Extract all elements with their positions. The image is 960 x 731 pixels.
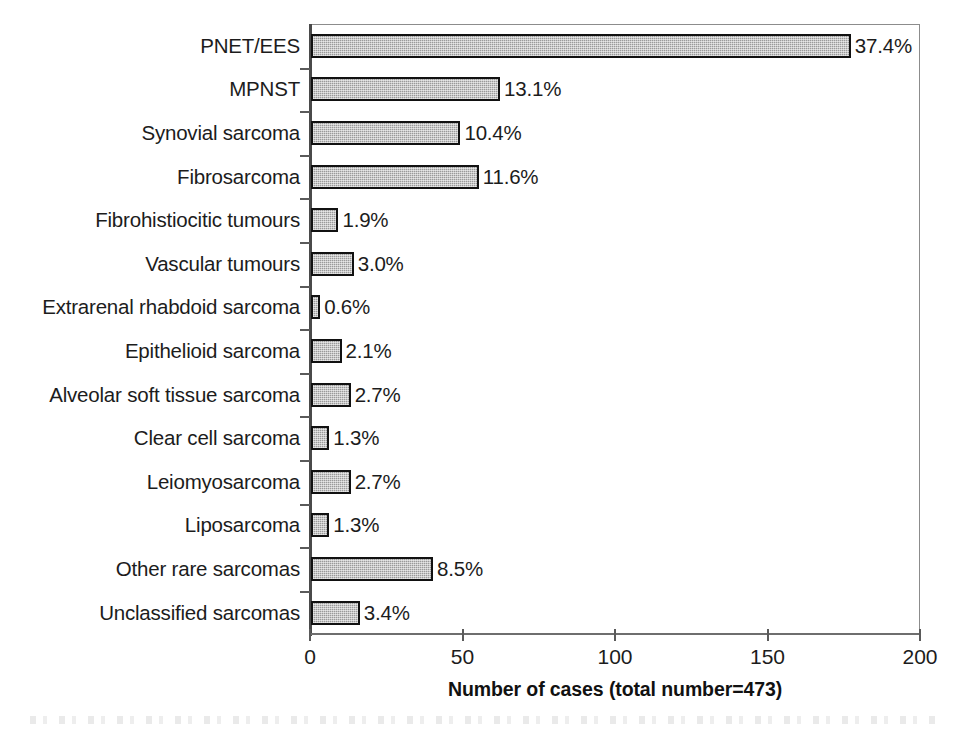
x-axis-tick-label: 200 — [902, 645, 937, 669]
category-label: Other rare sarcomas — [116, 557, 300, 581]
bar-group: 3.4% — [311, 601, 410, 625]
bar-group: 1.3% — [311, 513, 379, 537]
bar-row: Leiomyosarcoma2.7% — [0, 460, 960, 504]
y-axis-tick — [300, 242, 310, 244]
bar-group: 0.6% — [311, 295, 370, 319]
bar-value-label: 1.3% — [333, 426, 379, 450]
category-label: Vascular tumours — [145, 252, 300, 276]
bar — [311, 295, 320, 319]
y-axis-tick — [300, 547, 310, 549]
bar — [311, 77, 500, 101]
bar — [311, 208, 338, 232]
bar — [311, 426, 329, 450]
y-axis-tick — [300, 504, 310, 506]
y-axis-tick — [300, 460, 310, 462]
category-label: PNET/EES — [200, 34, 300, 58]
bar-row: Extrarenal rhabdoid sarcoma0.6% — [0, 286, 960, 330]
category-label: Fibrosarcoma — [177, 165, 300, 189]
bar-value-label: 1.9% — [342, 208, 388, 232]
bar-value-label: 3.4% — [364, 601, 410, 625]
bar-value-label: 2.1% — [346, 339, 392, 363]
y-axis-tick — [300, 198, 310, 200]
bar-row: Clear cell sarcoma1.3% — [0, 416, 960, 460]
bar — [311, 252, 354, 276]
x-axis-tick-label: 150 — [750, 645, 785, 669]
bar-value-label: 13.1% — [504, 77, 561, 101]
bar-row: Fibrohistiocitic tumours1.9% — [0, 198, 960, 242]
bar — [311, 121, 460, 145]
scan-artifact — [30, 716, 940, 724]
x-axis-tick-label: 100 — [597, 645, 632, 669]
bar-row: Liposarcoma1.3% — [0, 504, 960, 548]
y-axis-tick — [300, 416, 310, 418]
bar-group: 13.1% — [311, 77, 561, 101]
bar-group: 1.9% — [311, 208, 388, 232]
bar-row: Other rare sarcomas8.5% — [0, 547, 960, 591]
bar-group: 2.1% — [311, 339, 391, 363]
bar-row: PNET/EES37.4% — [0, 24, 960, 68]
bar-row: Synovial sarcoma10.4% — [0, 111, 960, 155]
bar-group: 1.3% — [311, 426, 379, 450]
category-label: Extrarenal rhabdoid sarcoma — [42, 295, 300, 319]
bar-value-label: 8.5% — [437, 557, 483, 581]
bar — [311, 470, 351, 494]
bar-value-label: 0.6% — [324, 295, 370, 319]
bar — [311, 557, 433, 581]
y-axis-tick — [300, 591, 310, 593]
category-label: Leiomyosarcoma — [147, 470, 300, 494]
bar — [311, 513, 329, 537]
x-axis-title: Number of cases (total number=473) — [310, 678, 920, 701]
bar-value-label: 37.4% — [855, 34, 912, 58]
bar-group: 10.4% — [311, 121, 522, 145]
bar-row: Alveolar soft tissue sarcoma2.7% — [0, 373, 960, 417]
y-axis-tick — [300, 155, 310, 157]
bar-value-label: 1.3% — [333, 513, 379, 537]
category-label: Synovial sarcoma — [141, 121, 300, 145]
bar-group: 3.0% — [311, 252, 404, 276]
x-axis-tick — [919, 629, 921, 641]
bar-row: Epithelioid sarcoma2.1% — [0, 329, 960, 373]
bar — [311, 339, 342, 363]
bar-value-label: 2.7% — [355, 383, 401, 407]
bar-value-label: 11.6% — [483, 165, 539, 189]
x-axis-tick — [462, 629, 464, 641]
category-label: Clear cell sarcoma — [134, 426, 300, 450]
y-axis-tick — [300, 373, 310, 375]
bar-row: Vascular tumours3.0% — [0, 242, 960, 286]
x-axis-tick — [614, 629, 616, 641]
category-label: Alveolar soft tissue sarcoma — [49, 383, 300, 407]
x-axis-tick-label: 50 — [451, 645, 474, 669]
bar — [311, 34, 851, 58]
category-label: Unclassified sarcomas — [99, 601, 300, 625]
x-axis-tick — [767, 629, 769, 641]
category-label: MPNST — [229, 77, 300, 101]
bar-group: 37.4% — [311, 34, 912, 58]
bar — [311, 383, 351, 407]
bar-row: MPNST13.1% — [0, 68, 960, 112]
bar — [311, 601, 360, 625]
category-label: Epithelioid sarcoma — [125, 339, 300, 363]
bar-group: 2.7% — [311, 470, 401, 494]
bar-chart-figure: PNET/EES37.4%MPNST13.1%Synovial sarcoma1… — [0, 0, 960, 731]
bar-group: 8.5% — [311, 557, 483, 581]
y-axis-tick — [300, 329, 310, 331]
bar-row: Fibrosarcoma11.6% — [0, 155, 960, 199]
bar-value-label: 2.7% — [355, 470, 401, 494]
x-axis-tick — [309, 629, 311, 641]
bar-value-label: 3.0% — [358, 252, 404, 276]
bar-row: Unclassified sarcomas3.4% — [0, 591, 960, 635]
y-axis-tick — [300, 286, 310, 288]
y-axis-tick — [300, 111, 310, 113]
category-label: Liposarcoma — [185, 513, 300, 537]
bar-value-label: 10.4% — [464, 121, 521, 145]
bar — [311, 165, 479, 189]
bar-group: 2.7% — [311, 383, 401, 407]
bar-group: 11.6% — [311, 165, 538, 189]
y-axis-tick — [300, 68, 310, 70]
category-label: Fibrohistiocitic tumours — [95, 208, 300, 232]
x-axis-tick-label: 0 — [304, 645, 316, 669]
